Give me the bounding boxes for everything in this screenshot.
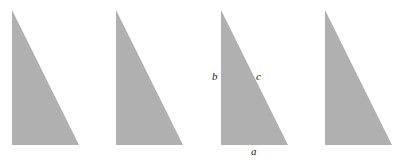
side-label-c: c bbox=[256, 71, 261, 82]
triangle-1 bbox=[12, 10, 79, 145]
geometry-figure: b c a bbox=[0, 0, 406, 160]
triangle-4 bbox=[325, 10, 392, 145]
side-label-a: a bbox=[251, 146, 257, 157]
triangles-canvas bbox=[0, 0, 406, 160]
triangle-2 bbox=[116, 10, 183, 145]
triangle-row bbox=[0, 0, 406, 160]
triangle-3 bbox=[221, 10, 288, 145]
side-label-b: b bbox=[212, 71, 218, 82]
